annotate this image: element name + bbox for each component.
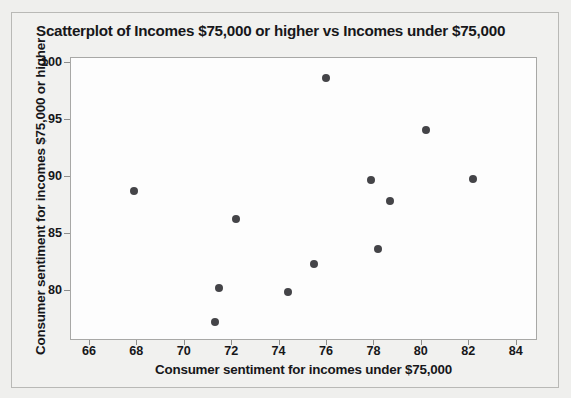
data-point <box>211 318 219 326</box>
data-point <box>310 260 318 268</box>
x-tick-label: 76 <box>306 344 346 358</box>
x-tick-mark <box>468 340 469 345</box>
y-tick-mark <box>64 62 70 63</box>
data-point <box>322 74 330 82</box>
y-tick-label: 100 <box>22 55 62 69</box>
x-tick-mark <box>326 340 327 345</box>
x-tick-mark <box>231 340 232 345</box>
data-point <box>374 245 382 253</box>
y-tick-mark <box>64 176 70 177</box>
x-tick-mark <box>89 340 90 345</box>
figure-canvas: Scatterplot of Incomes $75,000 or higher… <box>0 0 571 398</box>
plot-area <box>70 57 537 340</box>
y-tick-label: 85 <box>22 226 62 240</box>
y-tick-mark <box>64 233 70 234</box>
x-tick-label: 80 <box>401 344 441 358</box>
x-tick-label: 70 <box>164 344 204 358</box>
y-tick-label: 80 <box>22 283 62 297</box>
y-tick-mark <box>64 290 70 291</box>
y-tick-label: 90 <box>22 169 62 183</box>
y-tick-label: 95 <box>22 112 62 126</box>
x-tick-mark <box>184 340 185 345</box>
x-tick-label: 84 <box>496 344 536 358</box>
x-tick-mark <box>373 340 374 345</box>
data-point <box>130 187 138 195</box>
y-tick-mark <box>64 119 70 120</box>
data-point <box>215 284 223 292</box>
x-tick-label: 74 <box>259 344 299 358</box>
data-point <box>422 126 430 134</box>
x-tick-mark <box>421 340 422 345</box>
chart-title: Scatterplot of Incomes $75,000 or higher… <box>36 22 564 40</box>
x-tick-label: 68 <box>116 344 156 358</box>
data-point <box>232 215 240 223</box>
x-tick-label: 66 <box>69 344 109 358</box>
x-tick-label: 78 <box>353 344 393 358</box>
y-axis-label: Consumer sentiment for incomes $75,000 o… <box>33 37 48 357</box>
x-tick-mark <box>136 340 137 345</box>
x-tick-label: 82 <box>448 344 488 358</box>
x-tick-mark <box>279 340 280 345</box>
x-tick-mark <box>516 340 517 345</box>
x-tick-label: 72 <box>211 344 251 358</box>
data-point <box>386 197 394 205</box>
x-axis-label: Consumer sentiment for incomes under $75… <box>70 362 537 377</box>
